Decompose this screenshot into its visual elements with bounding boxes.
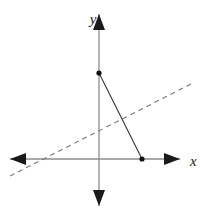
solid-segment [99,73,142,159]
dashed-line [10,84,191,176]
x-axis-right-arrow-icon [164,153,180,165]
x-axis-label: x [189,153,197,169]
point-on-y-axis [96,70,101,75]
y-axis-label: y [88,11,97,27]
point-on-x-axis [139,156,144,161]
coordinate-plane-figure: y x [0,0,204,216]
y-axis-down-arrow-icon [93,190,105,206]
x-axis-left-arrow-icon [10,153,26,165]
figure-canvas: y x [0,0,204,216]
